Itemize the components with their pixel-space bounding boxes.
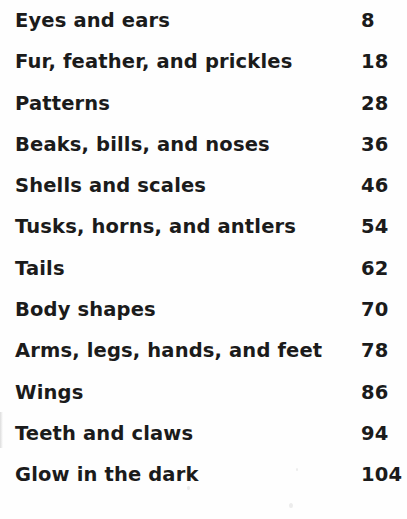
toc-entry[interactable]: Tails62 xyxy=(0,248,407,289)
toc-entry-page-number: 70 xyxy=(361,289,388,330)
toc-entry-title: Tusks, horns, and antlers xyxy=(15,206,296,247)
toc-entry-page-number: 8 xyxy=(361,0,375,41)
scan-speck xyxy=(289,503,293,508)
toc-entry-title: Wings xyxy=(15,372,83,413)
toc-entry-page-number: 104 xyxy=(361,454,402,495)
table-of-contents-list: Eyes and ears8Fur, feather, and prickles… xyxy=(0,0,407,496)
toc-entry-page-number: 94 xyxy=(361,413,388,454)
toc-entry-title: Fur, feather, and prickles xyxy=(15,41,292,82)
toc-entry-title: Body shapes xyxy=(15,289,156,330)
toc-entry-title: Shells and scales xyxy=(15,165,206,206)
toc-entry-page-number: 62 xyxy=(361,248,388,289)
toc-entry[interactable]: Tusks, horns, and antlers54 xyxy=(0,206,407,247)
toc-entry-title: Eyes and ears xyxy=(15,0,170,41)
toc-entry[interactable]: Patterns28 xyxy=(0,83,407,124)
toc-entry-title: Tails xyxy=(15,248,65,289)
toc-entry[interactable]: Beaks, bills, and noses36 xyxy=(0,124,407,165)
toc-entry-title: Glow in the dark xyxy=(15,454,199,495)
toc-entry-page-number: 46 xyxy=(361,165,388,206)
toc-entry-page-number: 54 xyxy=(361,206,388,247)
toc-entry-page-number: 18 xyxy=(361,41,388,82)
toc-entry[interactable]: Shells and scales46 xyxy=(0,165,407,206)
toc-entry-page-number: 78 xyxy=(361,330,388,371)
toc-entry[interactable]: Fur, feather, and prickles18 xyxy=(0,41,407,82)
toc-entry-page-number: 86 xyxy=(361,372,388,413)
toc-entry[interactable]: Wings86 xyxy=(0,372,407,413)
toc-entry[interactable]: Eyes and ears8 xyxy=(0,0,407,41)
table-of-contents-page: Eyes and ears8Fur, feather, and prickles… xyxy=(0,0,407,519)
toc-entry[interactable]: Arms, legs, hands, and feet78 xyxy=(0,330,407,371)
toc-entry-page-number: 28 xyxy=(361,83,388,124)
toc-entry-title: Beaks, bills, and noses xyxy=(15,124,270,165)
toc-entry[interactable]: Teeth and claws94 xyxy=(0,413,407,454)
toc-entry-title: Patterns xyxy=(15,83,110,124)
toc-entry[interactable]: Body shapes70 xyxy=(0,289,407,330)
toc-entry[interactable]: Glow in the dark104 xyxy=(0,454,407,495)
toc-entry-title: Teeth and claws xyxy=(15,413,193,454)
toc-entry-page-number: 36 xyxy=(361,124,388,165)
toc-entry-title: Arms, legs, hands, and feet xyxy=(15,330,322,371)
